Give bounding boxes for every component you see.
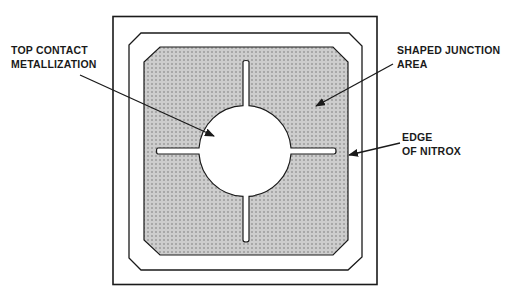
top-contact-label-line2: METALLIZATION <box>11 57 97 71</box>
edge-of-nitrox-label-line2: OF NITROX <box>402 144 461 158</box>
shaped-junction-label-line2: AREA <box>397 57 500 71</box>
edge-of-nitrox-label: EDGE OF NITROX <box>402 130 461 158</box>
shaped-junction-label-line1: SHAPED JUNCTION <box>397 43 500 57</box>
shaped-junction-area <box>144 47 348 255</box>
edge-of-nitrox-arrow <box>349 143 400 155</box>
edge-of-nitrox-label-line1: EDGE <box>402 130 461 144</box>
shaped-junction-label: SHAPED JUNCTION AREA <box>397 43 500 71</box>
top-contact-label: TOP CONTACT METALLIZATION <box>11 43 97 71</box>
top-contact-label-line1: TOP CONTACT <box>11 43 97 57</box>
